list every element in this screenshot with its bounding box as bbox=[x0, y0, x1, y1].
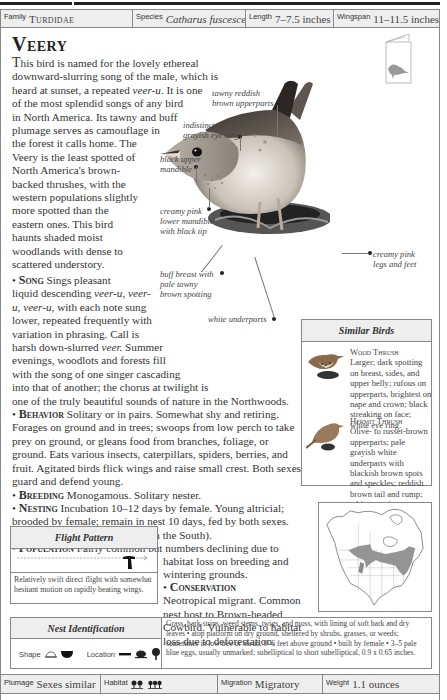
song-line: u, veer-u, with each note sung bbox=[12, 301, 289, 314]
song-line: evenings, woodlots and forests fill bbox=[12, 354, 289, 367]
breeding-text: Monogamous. Solitary nester. bbox=[67, 489, 201, 501]
similar-bird-name: Wood Thrush bbox=[350, 347, 432, 357]
family-cell: Family Turdidae bbox=[1, 10, 133, 27]
callout-text: legs and feet bbox=[373, 259, 416, 269]
shape-label: Shape bbox=[19, 650, 41, 659]
plumage-label: Plumage bbox=[4, 678, 34, 687]
callout-line bbox=[342, 253, 368, 254]
intro-line: Veery is the least spotted of bbox=[12, 151, 218, 164]
behavior-line: Forages on ground and in trees; swoops f… bbox=[12, 421, 301, 434]
flight-pattern-heading: Flight Pattern bbox=[11, 527, 157, 549]
nest-identification-left: Nest Identification Shape Location bbox=[11, 618, 162, 668]
song-section: • Song Sings pleasant liquid descending … bbox=[12, 274, 289, 408]
callout-text: tawny reddish bbox=[212, 88, 274, 98]
weight-label: Weight bbox=[326, 678, 349, 687]
species-cell: Species Catharus fuscescens bbox=[133, 10, 246, 27]
intro-line: This bird is named for the lovely ethere… bbox=[12, 56, 218, 70]
intro-line: in North America. Its tawny and buff bbox=[12, 111, 218, 124]
behavior-section: • Behavior Solitary or in pairs. Somewha… bbox=[12, 408, 301, 488]
flight-path-icon bbox=[11, 549, 157, 573]
habitat-label: Habitat bbox=[104, 678, 128, 687]
similar-bird-description: Olive- to russet-brown upperparts; pale … bbox=[350, 426, 432, 509]
wingspan-label: Wingspan bbox=[337, 12, 370, 21]
similar-birds-heading: Similar Birds bbox=[302, 320, 431, 342]
similar-bird-hermit-thrush: Hermit Thrush Olive- to russet-brown upp… bbox=[350, 416, 432, 510]
intro-line: heard at sunset, a repeated veer-u. It i… bbox=[12, 84, 218, 97]
song-line: • Song Sings pleasant bbox=[12, 274, 289, 287]
flight-pattern-description: Relatively swift direct flight with some… bbox=[11, 573, 157, 596]
intro-line: woodlands with dense to bbox=[12, 245, 218, 258]
tree-location-icon bbox=[151, 647, 161, 661]
wood-thrush-icon bbox=[306, 348, 346, 380]
similar-bird-name: Hermit Thrush bbox=[350, 416, 432, 426]
population-continued: habitat loss on breeding and wintering g… bbox=[163, 555, 289, 582]
family-value: Turdidae bbox=[29, 13, 74, 25]
intro-line: haunts shaded moist bbox=[12, 231, 218, 244]
species-title: Veery bbox=[12, 33, 67, 56]
nesting-text: Incubation 10–12 days by female. Young a… bbox=[60, 502, 284, 514]
cup-nest-icon bbox=[61, 650, 73, 659]
plumage-cell: Plumage Sexes similar bbox=[1, 675, 101, 693]
nesting-line: • Nesting Incubation 10–12 days by femal… bbox=[12, 502, 289, 515]
behavior-line: • Behavior Solitary or in pairs. Somewha… bbox=[12, 408, 301, 421]
intro-line-text: his bird is named for the lovely etherea… bbox=[21, 57, 199, 69]
shrub-location-icon bbox=[135, 649, 147, 659]
conservation-line: • Conservation bbox=[163, 581, 301, 594]
behavior-line: ground. Eats various insects, caterpilla… bbox=[12, 448, 301, 461]
intro-line: downward-slurring song of the male, whic… bbox=[12, 70, 218, 83]
conservation-line: Neotropical migrant. Common bbox=[163, 594, 301, 607]
callout-legs: creamy pink legs and feet bbox=[373, 249, 416, 269]
footer-info-bar: Plumage Sexes similar Habitat Migration … bbox=[0, 674, 440, 694]
wingspan-cell: Wingspan 11–11.5 inches bbox=[334, 10, 439, 27]
nesting-heading: Nesting bbox=[19, 501, 58, 515]
intro-line: scattered understory. bbox=[12, 258, 218, 271]
length-cell: Length 7–7.5 inches bbox=[246, 10, 334, 27]
callout-line bbox=[240, 137, 241, 151]
behavior-line: guard and defend young. bbox=[12, 475, 301, 488]
population-line: habitat loss on breeding and bbox=[163, 555, 289, 568]
song-line: into that of another; the chorus at twil… bbox=[12, 381, 289, 394]
nest-description: Grass, bark strips, weed stems, twigs, a… bbox=[162, 618, 431, 668]
intro-line: North America's brown- bbox=[12, 164, 218, 177]
migration-cell: Migration Migratory bbox=[218, 675, 323, 693]
ground-location-icon bbox=[119, 651, 131, 657]
song-heading: Song bbox=[19, 273, 44, 287]
conservation-heading: Conservation bbox=[170, 580, 236, 594]
plumage-value: Sexes similar bbox=[37, 678, 96, 690]
intro-line: the forest it calls home. The bbox=[12, 137, 218, 150]
flight-pattern-diagram bbox=[11, 549, 157, 573]
nest-identification-heading: Nest Identification bbox=[11, 618, 161, 639]
callout-text: brown upperparts bbox=[212, 98, 274, 108]
length-value: 7–7.5 inches bbox=[275, 13, 331, 25]
intro-line: eastern ones. This bird bbox=[12, 218, 218, 231]
song-line: lower, repeated frequently with bbox=[12, 314, 289, 327]
intro-paragraph: This bird is named for the lovely ethere… bbox=[12, 56, 218, 272]
intro-line: more spotted than the bbox=[12, 204, 218, 217]
behavior-line: fruit. Agitated birds flick wings and ra… bbox=[12, 462, 301, 475]
habitat-cell: Habitat bbox=[101, 675, 218, 693]
song-line: with the song of one singer cascading bbox=[12, 368, 289, 381]
length-label: Length bbox=[249, 12, 272, 21]
top-rule-gap bbox=[72, 2, 74, 5]
callout-line bbox=[277, 105, 278, 137]
weight-cell: Weight 1.1 ounces bbox=[323, 675, 439, 693]
callout-text: creamy pink bbox=[373, 249, 416, 259]
species-value: Catharus fuscescens bbox=[166, 13, 246, 25]
weight-value: 1.1 ounces bbox=[352, 678, 399, 690]
callout-dot bbox=[368, 251, 372, 255]
migration-value: Migratory bbox=[255, 678, 300, 690]
callout-upperparts: tawny reddish brown upperparts bbox=[212, 88, 274, 108]
header-info-bar: Family Turdidae Species Catharus fuscesc… bbox=[0, 9, 440, 28]
song-line: harsh down-slurred veer. Summer bbox=[12, 341, 289, 354]
intro-line: plumage serves as camouflage in bbox=[12, 124, 218, 137]
hermit-thrush-icon bbox=[306, 416, 346, 452]
song-line: variation in phrasing. Call is bbox=[12, 328, 289, 341]
range-map bbox=[318, 502, 432, 612]
behavior-text: Solitary or in pairs. Somewhat shy and r… bbox=[67, 408, 279, 420]
north-america-range-map bbox=[319, 503, 431, 611]
top-rule bbox=[0, 2, 440, 5]
intro-line: of the most splendid songs of any bird bbox=[12, 97, 218, 110]
platform-nest-icon bbox=[45, 650, 57, 658]
deciduous-forest-icon bbox=[131, 680, 143, 689]
intro-line: western populations slightly bbox=[12, 191, 218, 204]
